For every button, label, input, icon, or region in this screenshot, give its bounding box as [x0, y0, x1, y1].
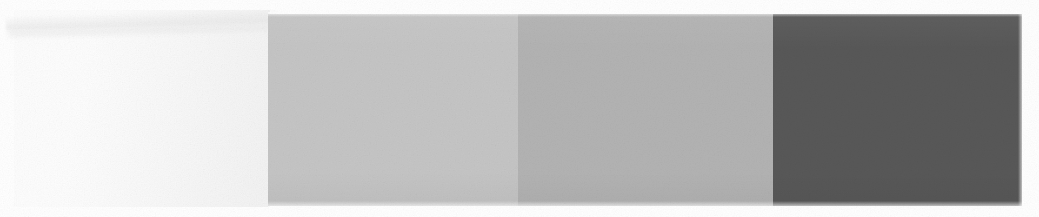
scan-canvas [0, 0, 1039, 217]
light-gray-patch [268, 14, 518, 206]
mid-gray-patch [518, 14, 773, 206]
paper-background-field [14, 10, 270, 207]
grayscale-step-wedge [268, 14, 1022, 206]
dark-gray-patch [773, 14, 1022, 206]
